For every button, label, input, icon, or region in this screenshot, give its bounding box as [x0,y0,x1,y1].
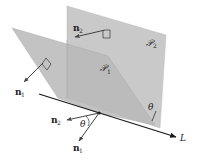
theta-bottom-arc [86,116,89,126]
theta-side-label: θ [148,102,154,112]
plane-p1-sub: 1 [107,68,111,75]
normal-n1-top-arrow [24,63,43,82]
theta-bottom-label: θ [80,119,86,129]
line-l-label: L [179,133,186,143]
plane-p2-sub: 2 [153,42,157,49]
planes-diagram: L n 2 n 1 𝒫 2 𝒫 1 θ θ n 2 n 1 [0,0,206,161]
normal-n2-top-sub: 2 [79,27,83,34]
diagram-canvas: L n 2 n 1 𝒫 2 𝒫 1 θ θ n 2 n 1 [0,0,206,161]
normal-n2-bottom-sub: 2 [57,119,61,126]
normal-n1-top-sub: 1 [21,91,25,98]
normal-n1-bottom-sub: 1 [79,147,83,154]
